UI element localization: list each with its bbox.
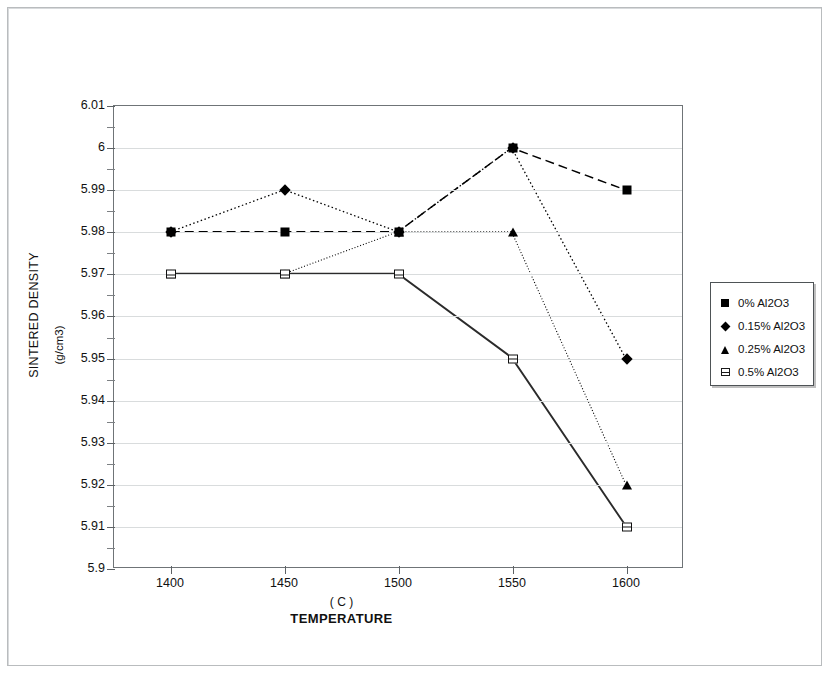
y-axis-tick-label: 5.95 [81,351,105,365]
y-axis-tick [107,232,115,233]
gridline [114,443,682,444]
y-axis-tick [107,527,115,528]
data-point-marker [281,228,290,237]
chart-legend: 0% Al2O30.15% Al2O30.25% Al2O30.5% Al2O3 [710,282,814,386]
y-axis-tick [107,274,115,275]
gridline [114,401,682,402]
gridline [114,359,682,360]
y-axis-minor-tick [107,169,115,170]
legend-marker-icon [719,343,731,355]
y-axis-tick [107,106,115,107]
x-axis-tick [627,566,628,574]
data-point-marker [622,522,632,531]
y-axis-tick-label: 5.91 [81,519,105,533]
data-point-marker [166,270,176,279]
legend-item[interactable]: 0.25% Al2O3 [719,339,805,359]
x-axis-tick-label: 1550 [498,576,526,590]
legend-item-label: 0.5% Al2O3 [738,366,799,378]
gridline [114,527,682,528]
y-axis-tick-labels: 6.0165.995.985.975.965.955.945.935.925.9… [55,105,105,568]
y-axis-tick [107,569,115,570]
y-axis-tick-label: 5.97 [81,266,105,280]
y-axis-tick [107,148,115,149]
legend-item-label: 0.15% Al2O3 [738,320,805,332]
legend-item-label: 0% Al2O3 [738,297,789,309]
data-point-marker [622,480,632,489]
y-axis-tick-label: 5.99 [81,182,105,196]
series-line [171,274,625,525]
plot-area [113,105,683,568]
x-axis-tick [171,566,172,574]
y-axis-minor-tick [107,380,115,381]
data-point-marker [508,228,518,237]
y-axis-minor-tick [107,506,115,507]
y-axis-minor-tick [107,295,115,296]
y-axis-minor-tick [107,464,115,465]
y-axis-tick-label: 6 [98,140,105,154]
y-axis-tick-label: 5.9 [88,561,105,575]
y-axis-minor-tick [107,338,115,339]
gridline [114,485,682,486]
y-axis-tick [107,359,115,360]
y-axis-minor-tick [107,253,115,254]
x-axis-tick [285,566,286,574]
y-axis-tick [107,316,115,317]
legend-item[interactable]: 0.15% Al2O3 [719,316,805,336]
legend-marker-icon [719,366,731,378]
legend-marker-icon [719,297,731,309]
series-lines [114,106,682,567]
legend-item[interactable]: 0% Al2O3 [719,293,789,313]
y-axis-tick-label: 6.01 [81,98,105,112]
chart-page: SINTERED DENSITY (g/cm3) 6.0165.995.985.… [0,0,831,673]
data-point-marker [394,228,404,237]
gridline [114,316,682,317]
y-axis-minor-tick [107,127,115,128]
y-axis-title: SINTERED DENSITY [22,190,46,440]
data-point-marker [508,354,518,363]
legend-item[interactable]: 0.5% Al2O3 [719,362,799,382]
y-axis-tick-label: 5.94 [81,393,105,407]
x-axis-tick-label: 1600 [612,576,640,590]
y-axis-tick [107,443,115,444]
y-axis-title-text: SINTERED DENSITY [27,252,41,378]
x-axis-tick [399,566,400,574]
y-axis-tick-label: 5.92 [81,477,105,491]
y-axis-minor-tick [107,211,115,212]
series-line [171,148,625,358]
y-axis-tick-label: 5.98 [81,224,105,238]
y-axis-tick [107,190,115,191]
x-axis-units-text: ( C ) [0,595,683,609]
legend-marker-icon [719,320,731,332]
data-point-marker [280,270,290,279]
y-axis-tick-label: 5.93 [81,435,105,449]
legend-item-label: 0.25% Al2O3 [738,343,805,355]
x-axis-tick-label: 1500 [384,576,412,590]
x-axis-title-text: TEMPERATURE [0,611,683,626]
y-axis-minor-tick [107,548,115,549]
x-axis-tick-label: 1450 [270,576,298,590]
x-axis-tick-labels: 14001450150015501600 [113,576,683,596]
y-axis-tick [107,485,115,486]
data-point-marker [394,270,404,279]
y-axis-tick [107,401,115,402]
x-axis-tick [513,566,514,574]
y-axis-minor-tick [107,422,115,423]
gridline [114,148,682,149]
x-axis-tick-label: 1400 [156,576,184,590]
gridline [114,190,682,191]
y-axis-tick-label: 5.96 [81,308,105,322]
data-point-marker [623,186,632,195]
